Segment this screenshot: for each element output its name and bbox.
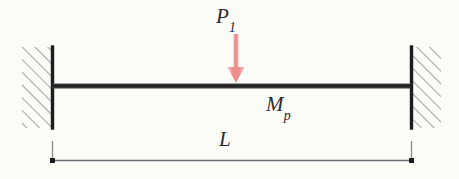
load-label-subscript: 1 xyxy=(229,20,236,35)
load-arrow-shaft xyxy=(234,34,239,68)
right-support-hatching xyxy=(411,47,441,128)
plastic-moment-subscript: p xyxy=(284,108,291,123)
beam-diagram: P1 Mp L xyxy=(0,0,459,179)
dimension-tick-right xyxy=(409,158,414,163)
load-label-symbol: P xyxy=(216,4,229,28)
load-arrow-p1 xyxy=(228,34,245,83)
load-label: P1 xyxy=(216,6,236,27)
span-dimension xyxy=(50,141,414,163)
span-label-symbol: L xyxy=(219,127,231,151)
plastic-moment-symbol: M xyxy=(266,92,284,116)
dimension-tick-left xyxy=(50,158,55,163)
beam-member xyxy=(52,84,411,89)
plastic-moment-label: Mp xyxy=(266,94,291,115)
span-label: L xyxy=(219,129,231,150)
left-support-hatching xyxy=(22,47,52,128)
right-fixed-support xyxy=(411,47,441,128)
load-arrow-head xyxy=(228,67,245,83)
left-fixed-support xyxy=(22,47,53,128)
